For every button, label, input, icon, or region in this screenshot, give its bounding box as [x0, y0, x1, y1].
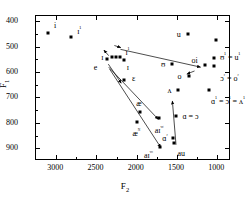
- point-label: ɪ: [127, 64, 129, 72]
- data-point: [212, 56, 215, 59]
- y-tick-minor: [36, 110, 38, 111]
- y-tick-mark: [225, 21, 229, 22]
- data-point: [203, 64, 206, 67]
- point-label: ɑ¹ = ɔ¹ = ʌ¹: [211, 96, 245, 106]
- y-tick-mark: [36, 123, 40, 124]
- data-point: [158, 145, 161, 148]
- point-label: ɪ: [101, 54, 103, 62]
- data-point: [135, 120, 138, 123]
- y-tick-mark: [36, 97, 40, 98]
- point-label: aɪᵛᵒ: [144, 150, 153, 160]
- y-tick-label: 800: [0, 117, 18, 126]
- point-label: ɑʳ: [162, 133, 167, 143]
- point-label: ʊ: [161, 61, 165, 69]
- point-label: o: [178, 73, 182, 81]
- x-tick-label: 2500: [87, 163, 103, 172]
- point-label: æᴺ: [133, 128, 141, 138]
- y-tick-mark: [225, 148, 229, 149]
- data-point: [122, 58, 125, 61]
- point-label: ɪ¹: [77, 26, 81, 36]
- x-tick-label: 3000: [47, 163, 63, 172]
- y-tick-label: 600: [0, 66, 18, 75]
- x-tick-mark: [137, 155, 138, 159]
- point-label: ɑ = ɔ: [182, 113, 198, 121]
- data-point: [170, 62, 173, 65]
- point-label: oi: [192, 57, 198, 65]
- point-label: u: [177, 31, 181, 39]
- x-tick-mark: [177, 16, 178, 20]
- point-label: e: [94, 64, 98, 72]
- data-point: [123, 79, 126, 82]
- x-tick-mark: [96, 16, 97, 20]
- data-point: [172, 136, 175, 139]
- x-tick-minor: [197, 157, 198, 159]
- data-point: [105, 58, 108, 61]
- x-tick-mark: [137, 16, 138, 20]
- point-label: ʊ¹ = u¹: [220, 52, 240, 62]
- data-point: [208, 89, 211, 92]
- data-point: [175, 114, 178, 117]
- y-tick-label: 900: [0, 143, 18, 152]
- data-point: [111, 55, 114, 58]
- y-tick-mark: [36, 47, 40, 48]
- y-axis-title: F1: [0, 80, 10, 88]
- y-tick-label: 500: [0, 41, 18, 50]
- vowel-formant-chart: F1 F2 4005006007008009003000250020001500…: [0, 0, 250, 204]
- point-label: ɔʳ = oʳ: [220, 73, 238, 83]
- y-tick-minor: [36, 34, 38, 35]
- data-point: [46, 32, 49, 35]
- data-point: [215, 39, 218, 42]
- y-tick-mark: [36, 148, 40, 149]
- data-point: [186, 33, 189, 36]
- y-tick-mark: [225, 123, 229, 124]
- x-tick-label: 2000: [128, 163, 144, 172]
- data-point: [177, 89, 180, 92]
- x-tick-minor: [157, 157, 158, 159]
- plot-area: [35, 15, 230, 160]
- point-label: ɛ: [132, 75, 135, 83]
- y-tick-minor: [36, 136, 38, 137]
- x-tick-minor: [117, 157, 118, 159]
- data-point: [157, 117, 160, 120]
- y-tick-label: 400: [0, 16, 18, 25]
- x-tick-label: 1500: [168, 163, 184, 172]
- y-tick-label: 700: [0, 92, 18, 101]
- x-axis-title: F2: [0, 181, 250, 193]
- point-label: au: [177, 150, 185, 158]
- y-tick-mark: [225, 47, 229, 48]
- data-point: [139, 111, 142, 114]
- x-tick-mark: [217, 155, 218, 159]
- y-tick-minor: [36, 59, 38, 60]
- y-tick-minor: [36, 85, 38, 86]
- point-label: ɪ¹: [125, 47, 129, 57]
- y-tick-mark: [36, 72, 40, 73]
- data-point: [187, 75, 190, 78]
- x-tick-minor: [76, 157, 77, 159]
- x-tick-mark: [56, 16, 57, 20]
- y-tick-mark: [36, 21, 40, 22]
- x-tick-label: 1000: [208, 163, 224, 172]
- data-point: [114, 55, 117, 58]
- data-point: [173, 142, 176, 145]
- point-label: i: [54, 22, 56, 30]
- data-point: [70, 36, 73, 39]
- x-tick-mark: [96, 155, 97, 159]
- x-tick-mark: [217, 16, 218, 20]
- point-label: æ: [136, 100, 141, 108]
- data-point: [213, 64, 216, 67]
- point-label: ʌ: [167, 87, 171, 95]
- x-tick-mark: [56, 155, 57, 159]
